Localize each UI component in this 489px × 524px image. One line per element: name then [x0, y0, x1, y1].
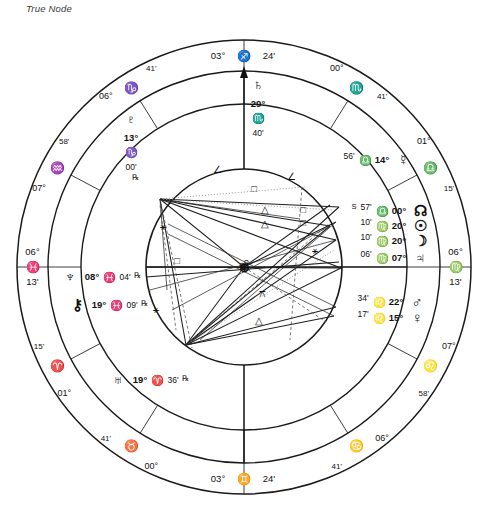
planet-sign: ♈ — [151, 374, 164, 387]
cusp-spoke-9 — [330, 101, 347, 129]
planet-glyph: ☿ — [397, 151, 408, 168]
planet-degree: 19° — [133, 374, 148, 385]
planet-sign: ♓ — [103, 271, 116, 284]
axis-deg-DSC: 06° — [448, 246, 463, 257]
cusp-min-11: 41' — [146, 64, 157, 73]
aspect-glyph-sextile: ⚹ — [312, 245, 318, 256]
axis-sign-ASC: ♓ — [26, 260, 40, 274]
planet-saturn: ♄29°♏40' — [251, 76, 266, 138]
planet-glyph: ☽ — [414, 232, 427, 249]
astrology-wheel: 06°♓13'01°♈15'00°♉41'03°♊24'06°♋41'07°♌5… — [0, 0, 489, 524]
aspect-glyph-square: □ — [251, 183, 257, 194]
planet-minute: 04' — [119, 272, 130, 282]
planet-jupiter: ♃07°♍06' — [360, 249, 425, 266]
planet-retrograde: ℞ — [132, 173, 139, 182]
axis-lines — [146, 66, 407, 463]
cusp-deg-8: 01° — [417, 136, 431, 146]
cusp-sign-12: ♒ — [50, 161, 65, 175]
cusp-spoke-2 — [71, 344, 100, 359]
cusp-spoke-3 — [140, 405, 157, 433]
planet-degree: 07° — [392, 252, 407, 263]
cusp-min-8: 15' — [444, 184, 455, 193]
planet-degree: 20° — [392, 220, 407, 231]
planet-minute: 17' — [357, 309, 368, 319]
planet-glyph: ♅ — [112, 371, 123, 388]
planet-sign: ♓ — [110, 299, 123, 312]
cusp-spoke-11 — [140, 101, 157, 129]
planet-degree: 29° — [251, 98, 266, 109]
planet-minute: 06' — [360, 249, 371, 259]
axis-sign-MC: ♐ — [237, 49, 251, 63]
cusp-deg-9: 00° — [330, 63, 344, 73]
aspect-glyph-trine: △ — [255, 315, 263, 326]
cusp-min-12: 58' — [59, 137, 70, 146]
planet-sign: ♍ — [376, 220, 389, 233]
planet-minute: 56' — [343, 151, 354, 161]
planet-glyph: ♂ — [411, 293, 422, 310]
earth-center-icon: ⊕ — [239, 260, 250, 275]
planet-minute: 10' — [360, 232, 371, 242]
planet-glyph: ♀ — [411, 309, 422, 326]
cusp-spoke-8 — [388, 175, 417, 190]
planet-minute: 36' — [167, 375, 178, 385]
aspect-glyph-sextile: ⚹ — [153, 304, 159, 315]
aspect-line-dotted — [160, 187, 305, 199]
planet-neptune: ♆08°♓04'℞ — [64, 268, 140, 285]
aspect-glyph-sextile: ⚹ — [160, 221, 166, 232]
cusp-sign-3: ♉ — [124, 439, 139, 453]
cusp-deg-12: 07° — [32, 183, 46, 193]
aspect-line — [186, 268, 341, 345]
planet-degree: 19° — [92, 299, 107, 310]
planet-sign: ♎ — [376, 205, 389, 218]
cusp-spoke-6 — [388, 344, 417, 359]
cusp-min-5: 41' — [332, 462, 343, 471]
aspect-glyph-semisextile: ∠ — [287, 171, 296, 182]
planet-sign: ♎ — [359, 154, 372, 167]
planet-mars: ♂22°♌34' — [357, 293, 422, 310]
planet-retrograde: ℞ — [182, 374, 189, 383]
aspect-glyph-trine: △ — [261, 204, 269, 215]
axis-min-MC: 24' — [263, 50, 276, 61]
planet-retrograde: S — [351, 202, 356, 211]
planet-chiron: ⚷19°♓09'℞ — [72, 296, 148, 313]
axis-sign-IC: ♊ — [237, 472, 251, 486]
planet-glyph: ♇ — [125, 110, 136, 127]
planet-glyph: ♆ — [64, 268, 75, 285]
cusp-spoke-5 — [330, 405, 347, 433]
cusp-deg-11: 06° — [99, 91, 113, 101]
planet-retrograde: ℞ — [134, 271, 141, 280]
planet-retrograde: ℞ — [141, 299, 148, 308]
aspect-glyph-quincunx: ⚻ — [259, 288, 266, 299]
cusp-sign-8: ♎ — [423, 161, 438, 175]
planet-degree: 13° — [124, 132, 139, 143]
cusp-sign-2: ♈ — [50, 359, 65, 373]
planet-minute: 34' — [357, 293, 368, 303]
cusp-deg-2: 01° — [57, 388, 71, 398]
planet-uranus: ♅19°♈36'℞ — [112, 371, 188, 388]
axis-min-DSC: 13' — [449, 276, 462, 287]
cusp-min-9: 41' — [377, 92, 388, 101]
axis-deg-IC: 03° — [211, 473, 226, 484]
planet-degree: 00° — [392, 205, 407, 216]
planet-degree: 22° — [389, 296, 404, 307]
aspect-glyph-square: □ — [300, 217, 306, 228]
planet-minute: 57' — [360, 202, 371, 212]
aspect-line — [186, 267, 244, 345]
planet-minute: 40' — [252, 128, 263, 138]
planet-sign: ♌ — [373, 312, 386, 325]
mc-arrow-icon — [240, 66, 248, 78]
planet-sign: ♍ — [376, 235, 389, 248]
aspect-glyph-square: □ — [300, 204, 306, 215]
cusp-sign-5: ♋ — [349, 439, 364, 453]
cusp-sign-11: ♑ — [124, 81, 139, 95]
aspect-glyph-semisextile: ∠ — [213, 164, 222, 175]
aspect-glyph-trine: △ — [261, 218, 269, 229]
cusp-sign-6: ♌ — [423, 359, 438, 373]
planet-venus: ♀15°♌17' — [357, 309, 422, 326]
planet-sign: ♌ — [373, 296, 386, 309]
planet-sign: ♑ — [125, 146, 138, 159]
planet-degree: 20° — [392, 235, 407, 246]
axis-sign-DSC: ♍ — [449, 260, 463, 274]
cusp-min-6: 58' — [419, 389, 430, 398]
planet-pluto: ♇13°♑00'℞ — [124, 110, 139, 182]
